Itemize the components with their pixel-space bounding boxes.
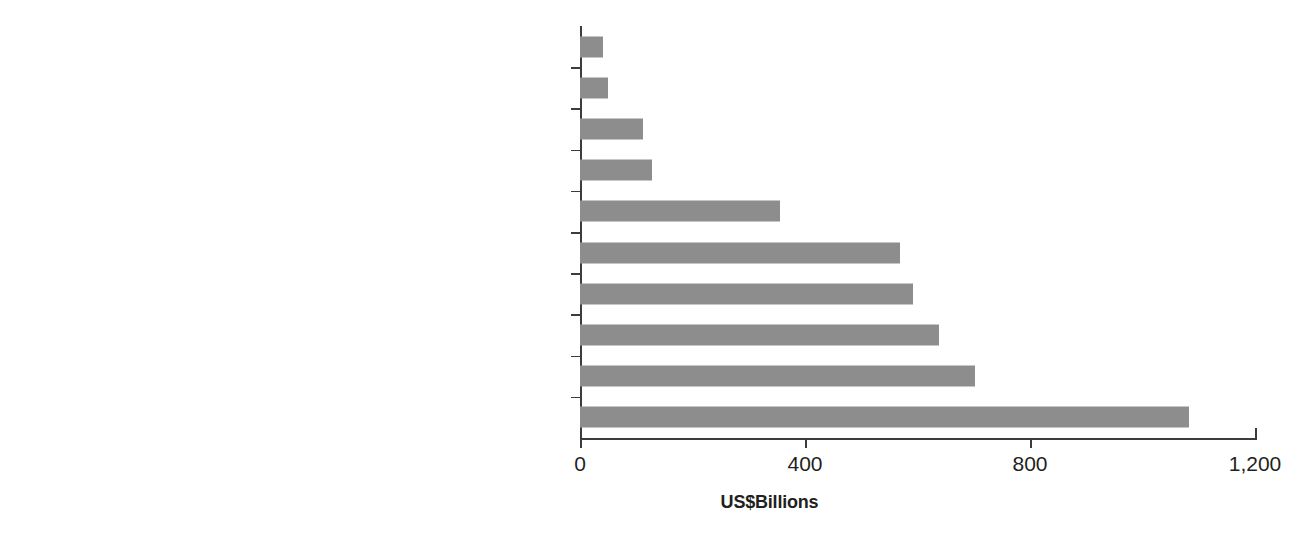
bar-row: Thermal/Mineral Springs: [580, 67, 1255, 108]
y-axis-tick: [571, 67, 580, 69]
x-axis-title-text: US$Billions: [721, 492, 819, 513]
y-axis-tick: [571, 273, 580, 275]
bar-row: Traditional & Complementary Medicine: [580, 191, 1255, 232]
bar: [580, 118, 643, 139]
x-axis-tick: [580, 438, 582, 448]
bar-row: Spa Economy: [580, 108, 1255, 149]
wellness-economy-bar-chart: Workplace WellnessThermal/Mineral Spring…: [0, 0, 1305, 547]
y-axis-tick: [571, 232, 580, 234]
y-axis-tick: [571, 397, 580, 399]
y-axis-tick: [571, 108, 580, 110]
x-axis-tick: [805, 438, 807, 448]
bar: [580, 324, 939, 345]
y-axis-tick: [571, 356, 580, 358]
bar-row: Wellness Lifestyle Real Estate: [580, 150, 1255, 191]
plot-area: Workplace WellnessThermal/Mineral Spring…: [580, 26, 1255, 438]
y-axis-tick: [571, 150, 580, 152]
bar: [580, 242, 900, 263]
bar-row: Wellness Tourism: [580, 314, 1255, 355]
bar: [580, 36, 603, 57]
x-axis-tick-label: 1,200: [1229, 452, 1282, 476]
bar: [580, 283, 913, 304]
x-axis-title: US$Billions: [0, 492, 1305, 513]
bar-row: Fitness & Mind-Body: [580, 273, 1255, 314]
bar: [580, 77, 608, 98]
bar-row: Preventative & Personalized Medicine and…: [580, 232, 1255, 273]
x-axis-line: [580, 438, 1257, 440]
bar-row: Workplace Wellness: [580, 26, 1255, 67]
bar-row: Personal Care, Beauty & Anti-Aging: [580, 397, 1255, 438]
x-axis-tick-label: 400: [787, 452, 822, 476]
bar: [580, 201, 780, 222]
bar: [580, 366, 975, 387]
y-axis-tick: [571, 191, 580, 193]
bar-row: Healthy Eating, Nutrition & Weight Loss: [580, 356, 1255, 397]
y-axis-tick: [571, 314, 580, 316]
bar: [580, 160, 652, 181]
bar: [580, 407, 1189, 428]
x-axis-tick: [1255, 428, 1257, 440]
x-axis-tick-label: 800: [1012, 452, 1047, 476]
x-axis-tick-label: 0: [574, 452, 586, 476]
x-axis-tick: [1030, 438, 1032, 448]
